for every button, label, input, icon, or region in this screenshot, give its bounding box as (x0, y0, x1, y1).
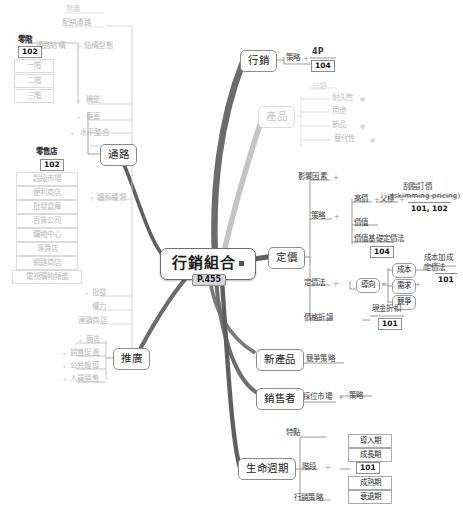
lifecycle-stage-2[interactable]: 成熟期 (348, 476, 392, 490)
expand-plus-icon[interactable]: + (415, 281, 421, 289)
pricing-orientation-node[interactable]: 導向 (356, 278, 380, 293)
branch-node-new-product[interactable]: 新產品 (256, 349, 304, 371)
promotion-item-1: 銷售促進 (70, 349, 99, 357)
channel-feature-0: 機能 (86, 96, 100, 104)
branch-label-new-product: 新產品 (264, 354, 296, 365)
branch-node-promotion[interactable]: 推廣 (113, 348, 150, 370)
lifecycle-stage-3-label: 衰退期 (360, 492, 381, 501)
expand-plus-icon[interactable]: + (381, 280, 387, 288)
branch-node-lifecycle[interactable]: 生命週期 (238, 458, 296, 480)
retail-item-7[interactable]: 電視購物頻道 (12, 270, 82, 284)
retail-item-5[interactable]: 專賣店 (16, 242, 78, 256)
lifecycle-features-label: 特點 (286, 429, 300, 437)
retail-item-6[interactable]: 網路商店 (16, 256, 78, 270)
lifecycle-stage-3[interactable]: 衰退期 (348, 490, 392, 504)
dot-icon: ● (360, 95, 365, 102)
channel-level-item-1[interactable]: 二階 (14, 74, 54, 88)
retail-item-1[interactable]: 便利商店 (16, 186, 78, 200)
collapse-square-icon[interactable] (239, 261, 244, 266)
retail-item-4[interactable]: 購物中心 (16, 228, 78, 242)
product-item-0: 耐久性 (332, 94, 354, 102)
channel-retail-ref: 102 (40, 159, 64, 171)
product-group-label: 分類 (312, 83, 326, 91)
branch-node-seller[interactable]: 銷售者 (256, 388, 304, 410)
expand-plus-icon[interactable]: + (374, 196, 380, 204)
channel-top-item-0: 無義 (66, 5, 80, 13)
center-node-label: 行銷組合 (172, 256, 236, 271)
branch-label-channel: 通路 (108, 149, 129, 160)
pricing-factors-label: 影響因素 (298, 173, 327, 181)
retail-item-0[interactable]: 超級市場 (16, 172, 78, 186)
channel-retail-group-label: 體系種類 (97, 194, 126, 202)
expand-plus-icon[interactable]: + (76, 43, 82, 51)
marketing-ref-badge: 104 (311, 60, 335, 72)
orientation-item-cost[interactable]: 成本 (392, 263, 416, 278)
lifecycle-stage-1[interactable]: 成長期 (348, 448, 392, 462)
orientation-item-demand[interactable]: 需求 (392, 279, 416, 294)
marketing-item-4p: 4P (312, 48, 324, 57)
dot-icon: ✦ (62, 376, 67, 383)
lifecycle-stage-0[interactable]: 導入期 (348, 434, 392, 448)
expand-plus-icon[interactable]: + (399, 196, 405, 204)
product-item-3: 替代性 (334, 135, 356, 143)
pricing-strategy-item-0: 高價 (354, 195, 368, 203)
branch-node-channel[interactable]: 通路 (100, 144, 137, 166)
lifecycle-stages-ref: 101 (356, 462, 380, 474)
pricing-discount-ref: 101 (378, 318, 402, 330)
new-product-item: 競爭策略 (306, 355, 335, 363)
dot-icon: ✦ (84, 290, 89, 297)
channel-feature-1: 垂直 (86, 113, 100, 121)
promotion-item-0: 廣告 (86, 336, 100, 344)
channel-extra-1: 權力 (92, 303, 106, 311)
expand-plus-icon[interactable]: + (303, 55, 309, 63)
dot-icon: ✦ (76, 114, 81, 121)
lifecycle-stage-2-label: 成熟期 (360, 478, 381, 487)
retail-item-2[interactable]: 批發倉庫 (16, 200, 78, 214)
seller-item: 採位市場 (303, 393, 332, 401)
promotion-item-2: 公共報導 (70, 362, 99, 370)
pricing-strategy-item-3: 價值基礎定價法 (354, 235, 404, 243)
pricing-method-label: 定價法 (304, 279, 326, 287)
channel-top-item-1: 配銷通路 (62, 19, 91, 27)
lifecycle-strategy-label: 行銷策略 (294, 494, 323, 502)
orientation-item-1-label: 需求 (397, 282, 411, 290)
expand-plus-icon[interactable]: + (325, 464, 331, 472)
lifecycle-stage-1-label: 成長期 (360, 450, 381, 459)
lifecycle-stages-label: 階段 (302, 463, 316, 471)
branch-node-product[interactable]: 產品 (258, 106, 295, 128)
seller-sub-item: 策略 (349, 392, 363, 400)
dot-icon: ● (370, 136, 375, 143)
retail-item-3[interactable]: 百貨公司 (16, 214, 78, 228)
expand-plus-icon[interactable]: + (338, 394, 344, 402)
branch-label-lifecycle: 生命週期 (246, 463, 288, 474)
channel-level-item-2[interactable]: 三階 (14, 89, 54, 103)
channel-extra-0: 批發 (92, 289, 106, 297)
mindmap-canvas: 行銷組合 P.455 行銷 策略 + 4P 104 產品 分類 耐久性 ● 用途… (0, 0, 463, 522)
channel-feature-2: 水平整合 (80, 129, 109, 137)
branch-node-marketing[interactable]: 行銷 (240, 50, 277, 72)
pricing-strategy-label: 策略 (311, 212, 325, 220)
dot-icon: ✦ (62, 363, 67, 370)
expand-plus-icon[interactable]: + (333, 280, 339, 288)
expand-plus-icon[interactable]: + (89, 195, 95, 203)
expand-plus-icon[interactable]: + (333, 174, 339, 182)
branch-label-promotion: 推廣 (121, 353, 142, 364)
product-item-1: 用途 (332, 107, 346, 115)
expand-plus-icon[interactable]: + (334, 213, 340, 221)
lifecycle-stage-0-label: 導入期 (360, 436, 381, 445)
center-page-badge: P.455 (192, 274, 226, 286)
channel-level-item-0[interactable]: 一階 (14, 59, 54, 73)
dot-icon: ● (360, 122, 365, 129)
branch-label-marketing: 行銷 (248, 55, 269, 66)
dot-icon: ✦ (62, 350, 67, 357)
channel-structure-type-label: 結構型態 (84, 42, 113, 50)
channel-retail-header: 零售店 (36, 148, 58, 156)
pricing-strategy-item-2: 價值 (354, 219, 368, 227)
skimming-label: 刮脂訂價 (403, 183, 432, 191)
dot-icon: ✦ (70, 130, 75, 137)
pricing-discount-item: 現金折扣 (372, 305, 401, 313)
pricing-discount-label: 價格折讓 (304, 314, 333, 322)
branch-label-pricing: 定價 (276, 252, 297, 263)
cost-plus-label-line2: 定價法 (424, 264, 446, 272)
branch-node-pricing[interactable]: 定價 (268, 247, 305, 269)
